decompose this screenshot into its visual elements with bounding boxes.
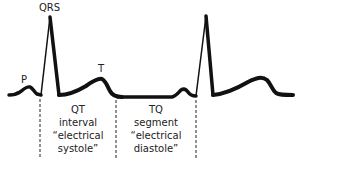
ecg-diagram: QRS P T QT interval “electrical systole”… [0,0,342,196]
label-t: T [97,63,105,74]
svg-text:QT: QT [71,104,86,115]
svg-text:interval: interval [59,117,97,128]
svg-text:“electrical: “electrical [131,130,182,141]
label-p: P [21,74,27,85]
svg-text:diastole”: diastole” [134,143,179,154]
tq-segment-label: TQ segment “electrical diastole” [131,104,182,154]
ecg-svg: QRS P T QT interval “electrical systole”… [0,0,342,196]
svg-text:systole”: systole” [58,143,99,154]
qt-interval-label: QT interval “electrical systole” [53,104,104,154]
svg-text:“electrical: “electrical [53,130,104,141]
ecg-trace [9,87,41,95]
label-qrs: QRS [39,2,60,13]
svg-text:segment: segment [134,117,178,128]
svg-text:TQ: TQ [148,104,163,115]
